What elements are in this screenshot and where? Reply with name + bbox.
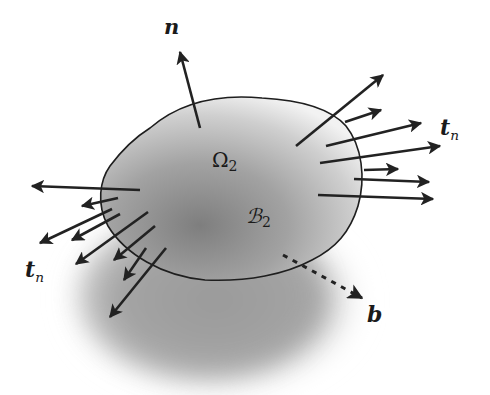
omega-symbol: Ω	[212, 148, 229, 172]
omega-subscript: 2	[229, 158, 238, 174]
normal-symbol: n	[164, 14, 179, 39]
label-traction-left: tn	[25, 258, 44, 284]
label-normal-n: n	[164, 16, 179, 37]
body-force-symbol: b	[367, 301, 382, 327]
label-body-b2: ℬ2	[246, 206, 271, 229]
mechanics-diagram: n Ω2 ℬ2 tn tn b	[0, 0, 490, 395]
traction-subscript: n	[35, 269, 44, 285]
traction-symbol: t	[25, 256, 35, 282]
label-traction-right: tn	[440, 116, 459, 142]
label-region-omega: Ω2	[212, 150, 238, 173]
label-body-force-b: b	[367, 303, 382, 325]
traction-symbol: t	[440, 114, 450, 140]
body-subscript: 2	[262, 214, 271, 230]
body-symbol: ℬ	[246, 204, 262, 228]
diagram-graphics	[0, 0, 490, 395]
traction-subscript: n	[450, 127, 459, 143]
